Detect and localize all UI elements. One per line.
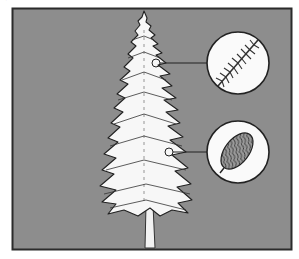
callout-label: Needle sprig	[0, 0, 7, 1]
callout-label: Cone	[0, 0, 3, 1]
conifer-diagram: Conifer tree with needle sprig and cone …	[0, 0, 299, 259]
